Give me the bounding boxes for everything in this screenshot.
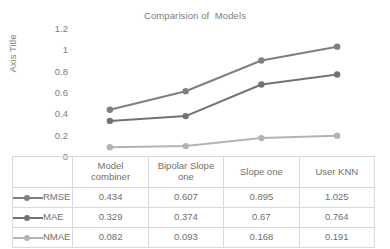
legend-marker-icon (13, 193, 43, 203)
data-point (107, 144, 113, 150)
plot-area (72, 28, 375, 156)
series-mae (107, 71, 341, 124)
header-line2: combiner (73, 172, 147, 183)
table-row: RMSE 0.434 0.607 0.895 1.025 (13, 188, 375, 208)
legend-cell-rmse: RMSE (13, 188, 73, 208)
data-point (107, 107, 113, 113)
legend-marker-icon (13, 233, 43, 243)
table-row: NMAE 0.082 0.093 0.168 0.191 (13, 228, 375, 248)
table-cell: 0.67 (224, 208, 299, 228)
y-axis-title: Axis Title (7, 16, 18, 92)
data-point (182, 88, 188, 94)
series-label: NMAE (43, 232, 70, 243)
data-point (334, 132, 340, 138)
series-nmae (107, 132, 341, 150)
table-header-corner (13, 157, 73, 188)
chart-data-table: Model combiner Bipolar Slope one Slope o… (12, 156, 375, 248)
table-cell: 0.168 (224, 228, 299, 248)
series-label: RMSE (43, 192, 70, 203)
data-point (182, 143, 188, 149)
legend-marker-icon (13, 213, 43, 223)
table-body: RMSE 0.434 0.607 0.895 1.025 MAE (13, 188, 375, 248)
data-point (258, 135, 264, 141)
table-header-cell-3: User KNN (299, 157, 374, 188)
y-tick-label: 1 (28, 45, 68, 55)
table-cell: 0.191 (299, 228, 374, 248)
header-line1: Bipolar Slope (158, 160, 215, 171)
table-cell: 0.329 (73, 208, 148, 228)
table-cell: 1.025 (299, 188, 374, 208)
table-cell: 0.082 (73, 228, 148, 248)
data-point (258, 81, 264, 87)
y-tick-label: 1.2 (28, 24, 68, 34)
header-line2: one (149, 172, 223, 183)
table-header-cell-2: Slope one (224, 157, 299, 188)
table-header-cell-1: Bipolar Slope one (148, 157, 223, 188)
data-point (107, 118, 113, 124)
plot-lines-svg (72, 28, 375, 156)
legend-dot (24, 235, 30, 241)
legend-dot (24, 195, 30, 201)
table-cell: 0.895 (224, 188, 299, 208)
table-cell: 0.374 (148, 208, 223, 228)
series-line (110, 75, 337, 121)
legend-dot (24, 215, 30, 221)
data-point (334, 43, 340, 49)
table-cell: 0.607 (148, 188, 223, 208)
table-row: MAE 0.329 0.374 0.67 0.764 (13, 208, 375, 228)
table-header-cell-0: Model combiner (73, 157, 148, 188)
data-point (182, 113, 188, 119)
header-line1: Model (98, 160, 124, 171)
chart-container: Comparision of Models 1.2 1 0.8 0.6 0.4 … (0, 0, 390, 249)
header-line1: Slope one (240, 166, 283, 177)
table-cell: 0.434 (73, 188, 148, 208)
y-tick-label: 0.4 (28, 109, 68, 119)
series-line (110, 136, 337, 148)
data-point (334, 71, 340, 77)
y-tick-label: 0.6 (28, 88, 68, 98)
series-label: MAE (43, 212, 64, 223)
table-cell: 0.764 (299, 208, 374, 228)
table-header-row: Model combiner Bipolar Slope one Slope o… (13, 157, 375, 188)
table-cell: 0.093 (148, 228, 223, 248)
y-tick-label: 0.2 (28, 131, 68, 141)
y-tick-label: 0.8 (28, 67, 68, 77)
legend-cell-mae: MAE (13, 208, 73, 228)
legend-cell-nmae: NMAE (13, 228, 73, 248)
chart-title: Comparision of Models (0, 10, 390, 21)
header-line1: User KNN (315, 166, 358, 177)
data-point (258, 57, 264, 63)
